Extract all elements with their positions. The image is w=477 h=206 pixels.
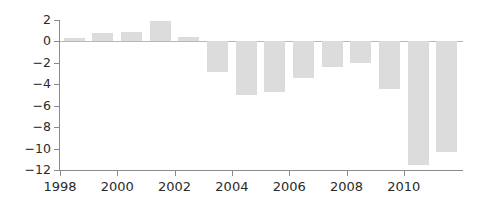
y-tick-label: −2 [33, 57, 51, 70]
bar-chart: 20−2−4−6−8−10−12 19982000200220042006200… [0, 0, 477, 206]
x-tick-label: 2008 [330, 180, 363, 193]
bar [264, 41, 285, 91]
y-tick-mark [54, 149, 60, 150]
bar [293, 41, 314, 77]
bar [436, 41, 457, 151]
x-tick-mark [60, 170, 61, 176]
bar [408, 41, 429, 164]
x-tick-mark [175, 170, 176, 176]
bar [178, 37, 199, 41]
x-tick-label: 2006 [273, 180, 306, 193]
bar [236, 41, 257, 95]
bar [207, 41, 228, 72]
x-tick-label: 2004 [215, 180, 248, 193]
x-tick-mark [347, 170, 348, 176]
x-tick-label: 2000 [101, 180, 134, 193]
y-tick-label: −12 [25, 164, 51, 177]
bar [64, 38, 85, 41]
bar [350, 41, 371, 62]
y-tick-label: −6 [33, 100, 51, 113]
bar [92, 33, 113, 42]
x-tick-label: 2002 [158, 180, 191, 193]
x-tick-label: 2010 [387, 180, 420, 193]
x-tick-mark [289, 170, 290, 176]
y-tick-label: −10 [25, 143, 51, 156]
x-tick-mark [117, 170, 118, 176]
y-tick-mark [54, 84, 60, 85]
x-axis-line [59, 170, 463, 171]
y-tick-mark [54, 63, 60, 64]
x-tick-mark [232, 170, 233, 176]
y-tick-mark [54, 20, 60, 21]
y-tick-label: −4 [33, 78, 51, 91]
bar [379, 41, 400, 88]
y-tick-label: −8 [33, 121, 51, 134]
y-tick-mark [54, 106, 60, 107]
plot-area: 20−2−4−6−8−10−12 19982000200220042006200… [0, 0, 477, 206]
bar [121, 32, 142, 42]
x-tick-mark [404, 170, 405, 176]
x-tick-label: 1998 [43, 180, 76, 193]
y-tick-mark [54, 41, 60, 42]
bar [322, 41, 343, 67]
y-tick-label: 2 [43, 14, 51, 27]
bar [150, 21, 171, 41]
y-tick-mark [54, 127, 60, 128]
y-tick-label: 0 [43, 35, 51, 48]
